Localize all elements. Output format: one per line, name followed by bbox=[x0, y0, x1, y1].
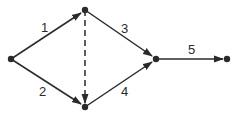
edge-label-5: 5 bbox=[188, 42, 195, 57]
network-diagram: 1 2 3 4 5 bbox=[0, 0, 237, 122]
edge-label-1: 1 bbox=[41, 20, 48, 35]
node-e bbox=[224, 56, 230, 62]
node-d bbox=[153, 56, 159, 62]
node-b bbox=[82, 7, 88, 13]
edge-4 bbox=[85, 62, 152, 107]
edge-label-4: 4 bbox=[121, 84, 128, 99]
node-c bbox=[82, 104, 88, 110]
edge-label-2: 2 bbox=[39, 84, 46, 99]
edge-3 bbox=[85, 10, 152, 56]
edge-label-3: 3 bbox=[121, 21, 128, 36]
node-a bbox=[8, 56, 14, 62]
